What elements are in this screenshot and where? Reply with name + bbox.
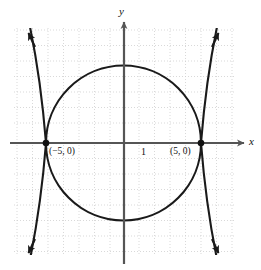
y-axis-label: y (119, 6, 124, 17)
coordinate-plane-svg (0, 0, 261, 270)
unit-tick-label: 1 (141, 147, 146, 157)
point-label-left-vertex: (−5, 0) (49, 147, 75, 157)
point-label-right-vertex: (5, 0) (170, 147, 191, 157)
point-marker-right-vertex (198, 140, 205, 147)
graph-figure: y x (−5, 0) 1 (5, 0) (0, 0, 261, 270)
x-axis-label: x (249, 136, 254, 147)
